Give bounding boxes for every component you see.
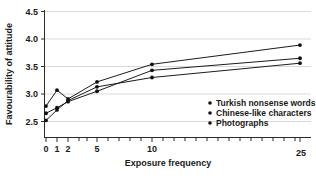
y-tick-label-0: 4.5: [25, 7, 38, 17]
y-tick-label-4: 2.5: [25, 117, 38, 127]
data-point: [44, 104, 48, 108]
chart-figure: 4.5 4.0 3.5 3.0 2.5 Favourability of att…: [0, 0, 316, 179]
legend-label-1: Chinese-like characters: [216, 108, 312, 118]
x-tick-label-3: 5: [94, 144, 99, 154]
y-tick-marks: [41, 12, 45, 122]
data-point: [150, 62, 154, 66]
data-point: [150, 68, 154, 72]
x-tick-label-0: 0: [43, 144, 48, 154]
x-tick-marks: [46, 138, 300, 143]
data-point: [150, 76, 154, 80]
x-tick-label-2: 2: [65, 144, 70, 154]
x-tick-label-5: 25: [296, 148, 306, 158]
data-point: [95, 85, 99, 89]
y-tick-label-1: 4.0: [25, 34, 38, 44]
legend: Turkish nonsense words Chinese-like char…: [208, 98, 316, 128]
y-tick-label-3: 3.0: [25, 89, 38, 99]
x-tick-label-1: 1: [54, 144, 59, 154]
y-tick-label-2: 3.5: [25, 62, 38, 72]
data-point: [44, 111, 48, 115]
legend-marker-1: [208, 111, 212, 115]
legend-marker-2: [208, 121, 212, 125]
data-point: [44, 119, 48, 123]
data-point: [95, 80, 99, 84]
chart-canvas: 4.5 4.0 3.5 3.0 2.5 Favourability of att…: [0, 0, 316, 179]
data-point: [55, 88, 59, 92]
data-point: [298, 56, 302, 60]
data-point: [95, 89, 99, 93]
data-point: [66, 99, 70, 103]
legend-label-2: Photographs: [216, 118, 269, 128]
x-axis-title: Exposure frequency: [125, 158, 212, 168]
legend-marker-0: [208, 101, 212, 105]
data-point: [298, 61, 302, 65]
y-axis-title: Favourability of attitude: [4, 23, 14, 125]
data-point: [55, 108, 59, 112]
data-point: [298, 43, 302, 47]
x-tick-label-4: 10: [147, 144, 157, 154]
legend-label-0: Turkish nonsense words: [216, 98, 316, 108]
